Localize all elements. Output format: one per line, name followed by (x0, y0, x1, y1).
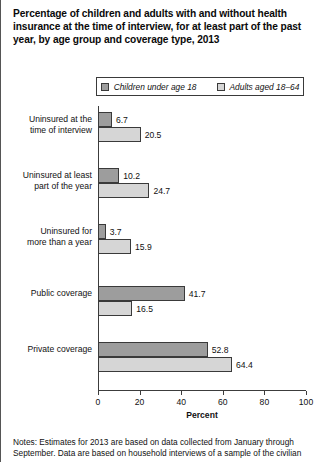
bar-value-adults: 24.7 (153, 186, 170, 196)
bar-adults (98, 357, 232, 372)
bar-adults (98, 239, 131, 254)
x-tick-20 (140, 391, 141, 395)
category-label-uninsured-part-year: Uninsured at least part of the year (0, 170, 92, 192)
x-tick-label-100: 100 (299, 397, 313, 407)
x-tick-label-80: 80 (260, 397, 270, 407)
bar-row-children: 6.7 (98, 112, 128, 127)
bar-adults (98, 183, 149, 198)
category-label-private-coverage: Private coverage (0, 344, 92, 355)
bar-children (98, 112, 112, 127)
bar-value-adults: 15.9 (135, 242, 152, 252)
bar-row-children: 3.7 (98, 224, 122, 239)
bar-value-children: 10.2 (123, 171, 140, 181)
x-tick-label-40: 40 (176, 397, 186, 407)
bar-adults (98, 301, 132, 316)
legend-label-children: Children under age 18 (114, 82, 197, 92)
x-tick-label-20: 20 (135, 397, 145, 407)
x-axis-line (98, 390, 306, 391)
bar-value-children: 3.7 (110, 227, 122, 237)
x-tick-label-0: 0 (96, 397, 101, 407)
bar-value-adults: 16.5 (136, 304, 153, 314)
bar-children (98, 168, 119, 183)
bar-value-children: 6.7 (116, 115, 128, 125)
bar-children (98, 224, 106, 239)
plot-area: 6.7 20.5 10.2 24.7 3.7 (98, 106, 306, 390)
bar-row-children: 41.7 (98, 286, 205, 301)
legend-item-children: Children under age 18 (101, 82, 197, 92)
x-axis-title: Percent (98, 410, 306, 420)
legend-item-adults: Adults aged 18–64 (217, 82, 300, 92)
legend-swatch-adults-icon (217, 83, 225, 91)
x-tick-0 (98, 391, 99, 395)
bar-row-children: 10.2 (98, 168, 140, 183)
chart-title: Percentage of children and adults with a… (13, 7, 313, 47)
bar-value-adults: 20.5 (145, 130, 162, 140)
bar-row-adults: 16.5 (98, 301, 153, 316)
legend-swatch-children-icon (101, 83, 109, 91)
bar-value-adults: 64.4 (236, 360, 253, 370)
chart-notes: Notes: Estimates for 2013 are based on d… (13, 437, 313, 460)
bar-row-adults: 20.5 (98, 127, 161, 142)
bar-row-children: 52.8 (98, 342, 229, 357)
bar-row-adults: 64.4 (98, 357, 253, 372)
chart-legend: Children under age 18 Adults aged 18–64 (96, 77, 304, 96)
bar-children (98, 286, 185, 301)
category-label-public-coverage: Public coverage (0, 288, 92, 299)
x-tick-100 (306, 391, 307, 395)
bar-adults (98, 127, 141, 142)
category-label-uninsured-at-interview: Uninsured at the time of interview (0, 114, 92, 136)
chart-figure: Percentage of children and adults with a… (0, 0, 323, 462)
x-tick-60 (223, 391, 224, 395)
legend-label-adults: Adults aged 18–64 (230, 82, 300, 92)
category-label-uninsured-more-than-year: Uninsured for more than a year (0, 226, 92, 248)
bar-children (98, 342, 208, 357)
bar-row-adults: 15.9 (98, 239, 152, 254)
bar-value-children: 41.7 (189, 289, 206, 299)
bar-row-adults: 24.7 (98, 183, 170, 198)
x-tick-80 (264, 391, 265, 395)
x-tick-40 (181, 391, 182, 395)
bar-value-children: 52.8 (212, 345, 229, 355)
x-tick-label-60: 60 (218, 397, 228, 407)
